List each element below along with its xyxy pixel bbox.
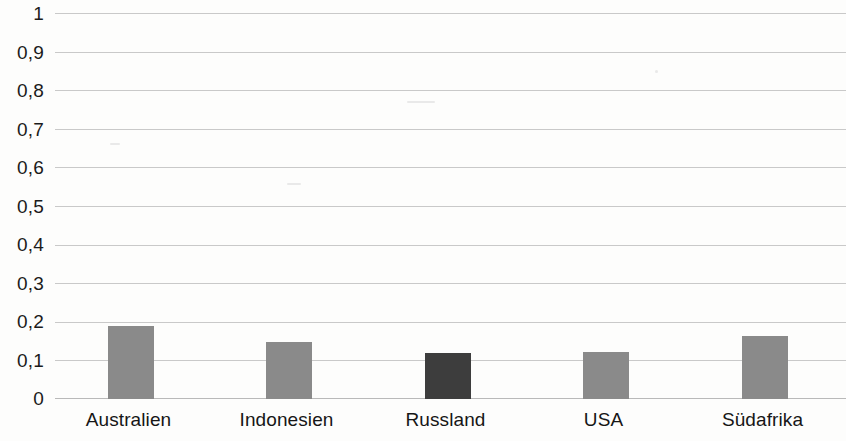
y-axis-tick-label: 1	[0, 4, 44, 23]
plot-area	[55, 13, 846, 399]
y-axis-tick-label: 0,6	[0, 158, 44, 177]
scan-speckle	[110, 143, 120, 145]
bar-russland	[425, 353, 471, 399]
gridline	[55, 13, 846, 14]
gridline	[55, 245, 846, 246]
scan-speckle	[655, 70, 658, 73]
gridline	[55, 129, 846, 130]
y-axis-tick-label: 0,5	[0, 197, 44, 216]
bar-suedafrika	[742, 336, 788, 399]
scan-speckle	[287, 183, 301, 185]
bar-chart: 1 0,9 0,8 0,7 0,6 0,5 0,4 0,3 0,2 0,1 0	[0, 0, 846, 441]
y-axis-tick-label: 0,4	[0, 235, 44, 254]
y-axis-tick-label: 0	[0, 389, 44, 408]
bar-indonesien	[266, 342, 312, 399]
y-axis-tick-label: 0,9	[0, 43, 44, 62]
gridline	[55, 206, 846, 207]
gridline	[55, 90, 846, 91]
gridline	[55, 52, 846, 53]
bar-usa	[583, 352, 629, 399]
x-axis-label-suedafrika: Südafrika	[665, 409, 846, 431]
gridline	[55, 283, 846, 284]
y-axis-tick-label: 0,3	[0, 274, 44, 293]
bar-australien	[108, 326, 154, 399]
y-axis-tick-label: 0,2	[0, 312, 44, 331]
y-axis-tick-label: 0,7	[0, 120, 44, 139]
scan-speckle	[407, 101, 435, 103]
y-axis-tick-label: 0,8	[0, 81, 44, 100]
gridline	[55, 167, 846, 168]
y-axis-tick-label: 0,1	[0, 351, 44, 370]
gridline	[55, 322, 846, 323]
